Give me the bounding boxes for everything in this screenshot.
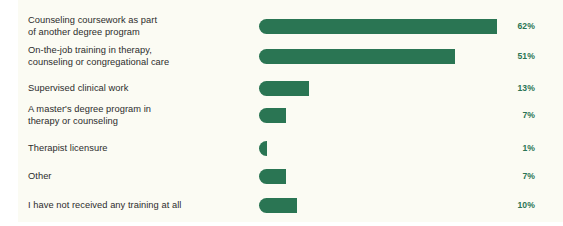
category-label: Supervised clinical work: [28, 82, 244, 94]
value-label: 13%: [470, 83, 535, 93]
category-label: On-the-job training in therapy, counseli…: [28, 44, 244, 68]
value-label: 7%: [470, 110, 535, 120]
chart-row: Counseling coursework as part of another…: [0, 12, 563, 42]
chart-row: A master's degree program in therapy or …: [0, 101, 563, 131]
bar-fill: [259, 198, 297, 213]
category-label: Therapist licensure: [28, 142, 244, 154]
chart-rows-container: Counseling coursework as part of another…: [0, 0, 563, 226]
value-label: 51%: [470, 51, 535, 61]
bar-fill: [259, 19, 497, 34]
value-label: 62%: [470, 21, 535, 31]
category-label: I have not received any training at all: [28, 199, 244, 211]
category-label: Counseling coursework as part of another…: [28, 14, 244, 38]
value-label: 7%: [470, 171, 535, 181]
value-label: 10%: [470, 200, 535, 210]
chart-row: Other7%: [0, 162, 563, 192]
chart-row: On-the-job training in therapy, counseli…: [0, 42, 563, 72]
bar-fill: [259, 169, 286, 184]
bar-chart: Counseling coursework as part of another…: [0, 0, 563, 226]
value-label: 1%: [470, 143, 535, 153]
chart-row: Supervised clinical work13%: [0, 74, 563, 104]
chart-row: I have not received any training at all1…: [0, 191, 563, 221]
chart-row: Therapist licensure1%: [0, 134, 563, 164]
bar-fill: [259, 141, 267, 156]
bar-fill: [259, 108, 286, 123]
bar-fill: [259, 49, 455, 64]
bar-fill: [259, 81, 309, 96]
category-label: A master's degree program in therapy or …: [28, 103, 244, 127]
category-label: Other: [28, 170, 244, 182]
